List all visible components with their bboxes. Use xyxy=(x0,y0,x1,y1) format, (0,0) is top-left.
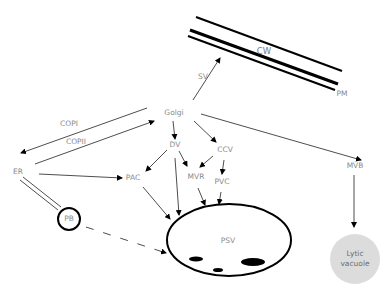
arrow-ccv-to-pvc xyxy=(222,160,224,174)
label-golgi: Golgi xyxy=(164,109,183,117)
psv-inclusion-1 xyxy=(189,257,203,262)
arrow-pac-to-psv xyxy=(143,187,170,219)
label-pb: PB xyxy=(64,215,74,223)
label-ccv: CCV xyxy=(217,146,233,154)
arrow-pvc-to-psv xyxy=(219,192,221,204)
arrow-golgi-to-dv xyxy=(173,121,175,139)
label-mvb: MVB xyxy=(347,162,364,170)
label-pac: PAC xyxy=(126,174,140,182)
label-mvr: MVR xyxy=(188,173,205,181)
label-copi: COPI xyxy=(60,120,78,128)
label-pm: PM xyxy=(337,90,348,98)
psv-inclusion-3 xyxy=(241,258,265,266)
label-copii: COPII xyxy=(66,138,86,146)
arrow-ccv-to-mvr xyxy=(200,156,213,167)
label-pvc: PVC xyxy=(215,178,230,186)
arrow-golgi-to-ccv xyxy=(194,121,216,142)
er-pb-double-line xyxy=(20,177,61,210)
psv-inclusion-2 xyxy=(213,268,223,272)
label-lytic-vacuole: Lytic vacuole xyxy=(340,249,369,269)
arrow-er-to-pac xyxy=(39,174,122,178)
label-sv: SV xyxy=(198,73,208,81)
arrow-pb-to-psv xyxy=(86,227,166,253)
trafficking-diagram xyxy=(0,0,385,294)
label-dv: DV xyxy=(170,141,181,149)
arrow-dv-to-psv xyxy=(175,158,179,215)
label-cw: CW xyxy=(257,47,271,56)
label-psv: PSV xyxy=(221,237,235,245)
arrow-copii xyxy=(35,121,154,164)
label-er: ER xyxy=(13,168,23,176)
arrow-dv-to-pac xyxy=(146,150,167,171)
arrow-dv-to-mvr xyxy=(179,151,187,166)
lytic-line-1: Lytic xyxy=(346,249,363,258)
lytic-line-2: vacuole xyxy=(340,259,369,268)
arrow-mvr-to-psv xyxy=(198,188,205,205)
